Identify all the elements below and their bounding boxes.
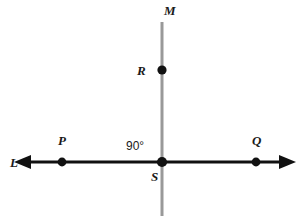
point-s-dot — [157, 157, 167, 167]
line-m-label: M — [164, 4, 176, 17]
point-p-label: P — [58, 134, 66, 147]
point-q-dot — [252, 158, 261, 167]
geometry-diagram: M R P Q L S 90° — [0, 0, 307, 216]
arrowhead-right-icon — [279, 155, 296, 169]
point-p-dot — [58, 158, 67, 167]
point-q-label: Q — [252, 134, 261, 147]
line-l-label: L — [10, 156, 18, 169]
point-r-label: R — [137, 64, 146, 77]
point-s-label: S — [151, 170, 158, 183]
right-angle-label: 90° — [126, 140, 144, 152]
point-r-dot — [157, 65, 166, 74]
